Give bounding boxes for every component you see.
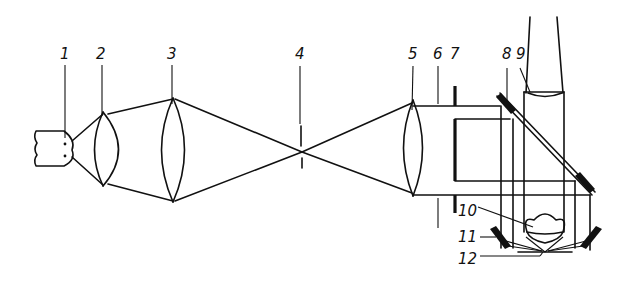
aperture-diaphragm xyxy=(301,126,302,168)
label-7: 7 xyxy=(450,45,460,63)
label-1: 1 xyxy=(60,45,70,63)
label-2: 2 xyxy=(96,45,106,63)
label-3: 3 xyxy=(167,45,177,63)
objective-front xyxy=(526,214,565,243)
condenser-lens-2 xyxy=(162,98,185,202)
label-10: 10 xyxy=(458,202,477,220)
annular-stop xyxy=(455,86,575,213)
label-11: 11 xyxy=(458,228,477,246)
ray xyxy=(72,157,103,185)
optical-diagram: 1 2 3 4 5 6 7 8 9 10 11 12 xyxy=(0,0,630,285)
upper-annular-mirror xyxy=(496,93,595,195)
collimating-lens xyxy=(404,100,423,196)
label-8: 8 xyxy=(502,45,512,63)
condenser-lens-1 xyxy=(95,112,119,186)
ray xyxy=(175,152,302,201)
leader-9 xyxy=(520,68,530,92)
ray xyxy=(175,99,302,152)
label-9: 9 xyxy=(516,45,526,63)
ray xyxy=(302,103,412,152)
light-source xyxy=(35,131,73,166)
label-6: 6 xyxy=(433,45,443,63)
label-12: 12 xyxy=(458,250,477,268)
ray xyxy=(108,184,173,201)
ray xyxy=(302,152,412,193)
label-5: 5 xyxy=(408,45,418,63)
ray xyxy=(108,99,173,114)
ray xyxy=(72,114,103,141)
lower-annular-mirror xyxy=(490,226,602,249)
label-4: 4 xyxy=(295,45,305,63)
leader-5 xyxy=(412,66,413,110)
